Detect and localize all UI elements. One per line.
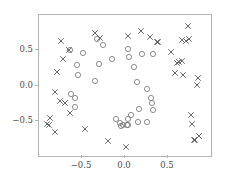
data-point-cross xyxy=(170,68,180,78)
data-point-circle xyxy=(98,40,108,50)
data-point-cross xyxy=(42,119,52,129)
data-point-circle xyxy=(148,105,158,115)
data-point-circle xyxy=(107,54,117,64)
y-axis-tick xyxy=(35,120,38,121)
y-axis-tick-label: 0.5 xyxy=(19,44,33,54)
x-axis-tick xyxy=(124,155,125,158)
x-axis-tick xyxy=(167,155,168,158)
data-point-cross xyxy=(177,56,187,66)
data-point-cross xyxy=(45,113,55,123)
data-point-circle xyxy=(133,117,143,127)
y-axis-tick xyxy=(35,85,38,86)
data-point-cross xyxy=(152,37,162,47)
data-point-cross xyxy=(55,96,65,106)
data-point-cross xyxy=(90,28,100,38)
x-axis-tick xyxy=(81,155,82,158)
data-point-circle xyxy=(146,93,156,103)
data-point-circle xyxy=(118,120,128,130)
data-point-cross xyxy=(186,110,196,120)
data-point-circle xyxy=(123,120,133,130)
data-point-circle xyxy=(90,76,100,86)
data-point-circle xyxy=(70,102,80,112)
data-point-circle xyxy=(122,120,132,130)
data-point-cross xyxy=(80,124,90,134)
data-point-cross xyxy=(153,37,163,47)
x-axis-tick-label: 0.0 xyxy=(117,160,131,170)
x-axis-tick-label: −0.5 xyxy=(71,160,92,170)
data-point-cross xyxy=(65,108,75,118)
data-point-cross xyxy=(52,67,62,77)
data-point-circle xyxy=(137,49,147,59)
data-point-cross xyxy=(177,35,187,45)
data-point-cross xyxy=(58,54,68,64)
data-point-circle xyxy=(148,49,158,59)
data-point-cross xyxy=(56,36,66,46)
data-point-circle xyxy=(134,104,144,114)
x-axis-tick-label: 0.5 xyxy=(160,160,174,170)
data-point-cross xyxy=(123,31,133,41)
data-point-circle xyxy=(123,114,133,124)
plot-area xyxy=(38,14,212,157)
data-point-cross xyxy=(183,21,193,31)
scatter-plot-figure: −0.50.00.5−0.50.00.5 xyxy=(0,0,225,188)
data-point-circle xyxy=(78,48,88,58)
data-point-circle xyxy=(92,34,102,44)
data-point-cross xyxy=(103,136,113,146)
data-point-circle xyxy=(73,70,83,80)
data-point-cross xyxy=(166,47,176,57)
data-point-circle xyxy=(129,62,139,72)
data-point-cross xyxy=(145,32,155,42)
data-point-circle xyxy=(66,89,76,99)
data-point-cross xyxy=(193,73,203,83)
data-point-cross xyxy=(136,26,146,36)
data-point-cross xyxy=(178,70,188,80)
data-point-cross xyxy=(60,98,70,108)
data-point-cross xyxy=(174,57,184,67)
data-point-circle xyxy=(142,84,152,94)
data-point-cross xyxy=(190,135,200,145)
data-point-circle xyxy=(123,44,133,54)
data-point-cross xyxy=(50,87,60,97)
data-point-cross xyxy=(184,34,194,44)
data-point-cross xyxy=(187,119,197,129)
data-point-cross xyxy=(194,131,204,141)
data-point-circle xyxy=(126,110,136,120)
data-point-cross xyxy=(181,36,191,46)
data-point-circle xyxy=(115,118,125,128)
data-point-circle xyxy=(94,59,104,69)
data-point-circle xyxy=(147,98,157,108)
data-point-cross xyxy=(64,45,74,55)
data-point-circle xyxy=(70,93,80,103)
data-point-circle xyxy=(142,117,152,127)
data-point-cross xyxy=(50,127,60,137)
data-point-circle xyxy=(132,77,142,87)
data-point-circle xyxy=(116,121,126,131)
data-point-circle xyxy=(111,114,121,124)
data-point-circle xyxy=(72,60,82,70)
data-point-cross xyxy=(95,33,105,43)
data-point-circle xyxy=(65,45,75,55)
data-point-cross xyxy=(44,120,54,130)
data-point-cross xyxy=(121,142,131,152)
data-point-cross xyxy=(189,135,199,145)
y-axis-tick-label: −0.5 xyxy=(12,115,33,125)
y-axis-tick xyxy=(35,49,38,50)
y-axis-tick-label: 0.0 xyxy=(19,80,33,90)
data-point-circle xyxy=(124,52,134,62)
data-point-cross xyxy=(192,80,202,90)
data-point-cross xyxy=(172,58,182,68)
